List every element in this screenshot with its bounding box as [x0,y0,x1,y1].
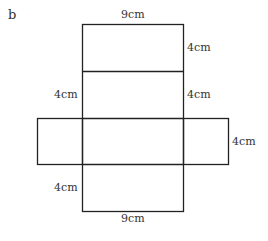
mid-right-height-label: 4cm [187,89,211,101]
bottom-left-height-label: 4cm [54,182,78,194]
top-right-height-label: 4cm [187,42,211,54]
right-flap [184,119,229,165]
side-flap-height-label: 4cm [232,136,256,148]
top-width-label: 9cm [121,9,145,21]
left-flap [38,119,83,165]
box-net-diagram [0,0,268,241]
bottom-width-label: 9cm [121,213,145,225]
mid-left-height-label: 4cm [54,89,78,101]
